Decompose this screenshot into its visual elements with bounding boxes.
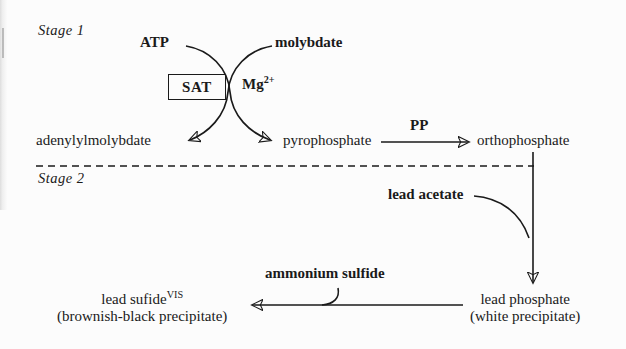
node-magnesium-cofactor: Mg2+ (242, 76, 275, 93)
enzyme-label-pp: PP (410, 117, 428, 134)
enzyme-label-sat: SAT (182, 79, 212, 96)
stage-2-label: Stage 2 (38, 170, 85, 186)
node-adenylylmolybdate: adenylylmolybdate (36, 132, 151, 149)
lead-sulfide-descriptor: (brownish-black precipitate) (57, 308, 227, 325)
node-molybdate: molybdate (275, 34, 343, 51)
node-lead-sulfide: lead sufideVIS (brownish-black precipita… (57, 291, 227, 325)
lead-sulfide-name-line: lead sufideVIS (57, 291, 227, 308)
node-lead-acetate: lead acetate (388, 186, 463, 203)
pathway-diagram-canvas: Stage 1 ATP molybdate SAT Mg2+ adenylylm… (0, 0, 626, 349)
curve-lead-acetate-feed (474, 196, 529, 238)
lead-phosphate-descriptor: (white precipitate) (470, 308, 580, 325)
magnesium-charge: 2+ (264, 74, 275, 85)
node-ammonium-sulfide: ammonium sulfide (265, 265, 385, 282)
lead-sulfide-superscript: VIS (167, 289, 183, 300)
stage-1-label: Stage 1 (38, 22, 85, 38)
lead-phosphate-name: lead phosphate (470, 291, 580, 308)
node-pyrophosphate: pyrophosphate (283, 132, 371, 149)
node-lead-phosphate: lead phosphate (white precipitate) (470, 291, 580, 325)
enzyme-box-sat: SAT (168, 74, 226, 100)
lead-sulfide-name: lead sufide (101, 291, 166, 307)
node-atp: ATP (140, 34, 169, 51)
node-orthophosphate: orthophosphate (477, 132, 569, 149)
curve-ammonium-sulfide-feed (322, 288, 338, 305)
magnesium-symbol: Mg (242, 76, 264, 92)
